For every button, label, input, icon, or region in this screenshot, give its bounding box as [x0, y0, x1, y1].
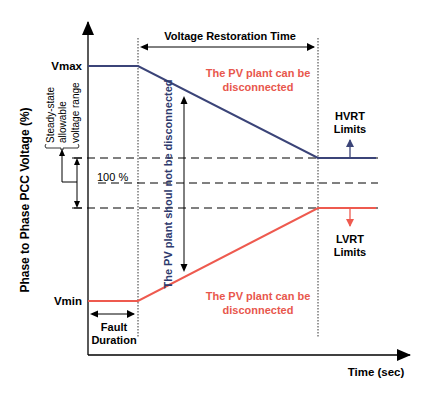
- ride-through-diagram: Phase to Phase PCC Voltage (%) Time (sec…: [0, 0, 429, 396]
- middle-region-label: The PV plant shoul not be disconnected: [162, 79, 174, 288]
- restoration-label: Voltage Restoration Time: [164, 30, 296, 42]
- hvrt-label-2: Limits: [334, 123, 366, 135]
- vmax-label: Vmax: [51, 60, 82, 72]
- lower-region-label-2: disconnected: [223, 304, 294, 316]
- svg-text:Steady-state: Steady-state: [45, 86, 56, 143]
- lvrt-label-1: LVRT: [336, 233, 364, 245]
- svg-text:voltage range: voltage range: [70, 82, 81, 143]
- hvrt-curve: [88, 66, 376, 158]
- steady-state-label: Steady-state allowable voltage range: [45, 82, 81, 143]
- fault-label-1: Fault: [101, 321, 128, 333]
- lower-region-label-1: The PV plant can be: [206, 290, 311, 302]
- upper-region-label-2: disconnected: [223, 81, 294, 93]
- vmin-label: Vmin: [54, 295, 82, 307]
- y-axis-label: Phase to Phase PCC Voltage (%): [18, 107, 32, 292]
- lvrt-curve: [88, 208, 376, 301]
- svg-text:allowable: allowable: [57, 101, 68, 143]
- steady-state-range-icon: [45, 144, 82, 208]
- x-axis-label: Time (sec): [348, 366, 405, 378]
- fault-label-2: Duration: [91, 334, 137, 346]
- lvrt-label-2: Limits: [334, 246, 366, 258]
- upper-region-label-1: The PV plant can be: [206, 67, 311, 79]
- nominal-label: 100 %: [97, 171, 128, 183]
- hvrt-label-1: HVRT: [335, 110, 365, 122]
